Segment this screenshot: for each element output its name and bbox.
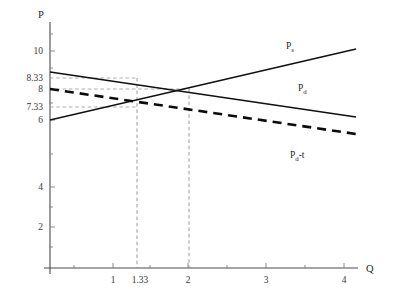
chart-canvas: 10 8.33 8 7.33 6 4 2 1 1.33 2 3 4 P Q Ps…: [0, 0, 393, 301]
curve-labels: Ps Pd Pd-t: [286, 41, 307, 162]
y-label-733: 7.33: [26, 102, 43, 112]
x-label-4: 4: [342, 275, 347, 285]
y-label-4: 4: [38, 182, 43, 192]
supply-label-subscript: s: [291, 46, 294, 53]
x-label-133: 1.33: [132, 275, 149, 285]
supply-demand-tax-chart: 10 8.33 8 7.33 6 4 2 1 1.33 2 3 4 P Q Ps…: [0, 0, 393, 301]
demand-curve-label: Pd: [298, 83, 307, 95]
y-label-2: 2: [38, 222, 43, 232]
demand-after-tax-curve-label: Pd-t: [290, 150, 305, 162]
y-axis-tick-labels: 10 8.33 8 7.33 6 4 2: [26, 46, 43, 232]
x-label-1: 1: [111, 275, 116, 285]
y-label-833: 8.33: [26, 73, 43, 83]
x-label-3: 3: [264, 275, 269, 285]
axis-titles: P Q: [38, 9, 374, 274]
demand-tax-label-suffix: -t: [299, 150, 305, 160]
reference-droplines: [137, 78, 189, 268]
demand-after-tax-curve-pd-minus-t: [50, 89, 356, 134]
y-label-8: 8: [38, 84, 43, 94]
supply-curve-label: Ps: [286, 41, 294, 53]
y-label-6: 6: [38, 115, 43, 125]
supply-curve-ps: [50, 49, 356, 120]
x-axis-tick-labels: 1 1.33 2 3 4: [111, 275, 347, 285]
y-axis-ticks: [50, 34, 55, 247]
curves-group: [50, 49, 356, 134]
demand-label-subscript: d: [303, 88, 307, 95]
y-label-10: 10: [34, 46, 44, 56]
x-label-2: 2: [186, 275, 191, 285]
x-axis-title: Q: [366, 263, 374, 274]
y-axis-title: P: [38, 9, 44, 20]
x-axis-ticks: [74, 263, 344, 268]
